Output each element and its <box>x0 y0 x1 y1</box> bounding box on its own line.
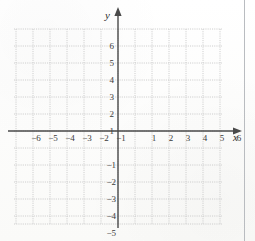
column-divider-rule <box>244 0 245 241</box>
x-tick-label: −3 <box>82 134 92 143</box>
x-tick-label: −2 <box>99 134 109 143</box>
x-tick-label: 5 <box>220 134 225 143</box>
y-axis-arrowhead <box>114 7 121 16</box>
y-tick-label: 4 <box>110 76 115 85</box>
x-tick-label: 2 <box>169 134 174 143</box>
x-tick-label: −1 <box>116 134 126 143</box>
y-tick-label: −2 <box>106 178 116 187</box>
x-tick-label: 4 <box>203 134 208 143</box>
axis-lines <box>14 29 222 224</box>
coordinate-plane <box>14 29 222 224</box>
y-tick-label: 2 <box>110 110 115 119</box>
y-tick-label: −5 <box>106 229 116 238</box>
x-tick-label: −4 <box>65 134 75 143</box>
worksheet-figure-page: −6 −5 −4 −3 −2 −1 1 2 3 4 5 6 6 5 4 3 2 … <box>0 0 255 241</box>
y-tick-label: −3 <box>106 195 116 204</box>
x-tick-label: −5 <box>48 134 58 143</box>
y-tick-label: −4 <box>106 212 116 221</box>
y-axis-label: y <box>105 10 110 21</box>
x-axis-label: x <box>233 132 238 143</box>
x-tick-label: −6 <box>31 134 41 143</box>
y-tick-label: 6 <box>110 42 115 51</box>
y-tick-label: 1 <box>110 127 115 136</box>
y-tick-label: −1 <box>106 161 116 170</box>
x-tick-label: 3 <box>186 134 191 143</box>
y-tick-label: 5 <box>110 59 115 68</box>
y-tick-label: 3 <box>110 93 115 102</box>
x-tick-label: 1 <box>152 134 157 143</box>
